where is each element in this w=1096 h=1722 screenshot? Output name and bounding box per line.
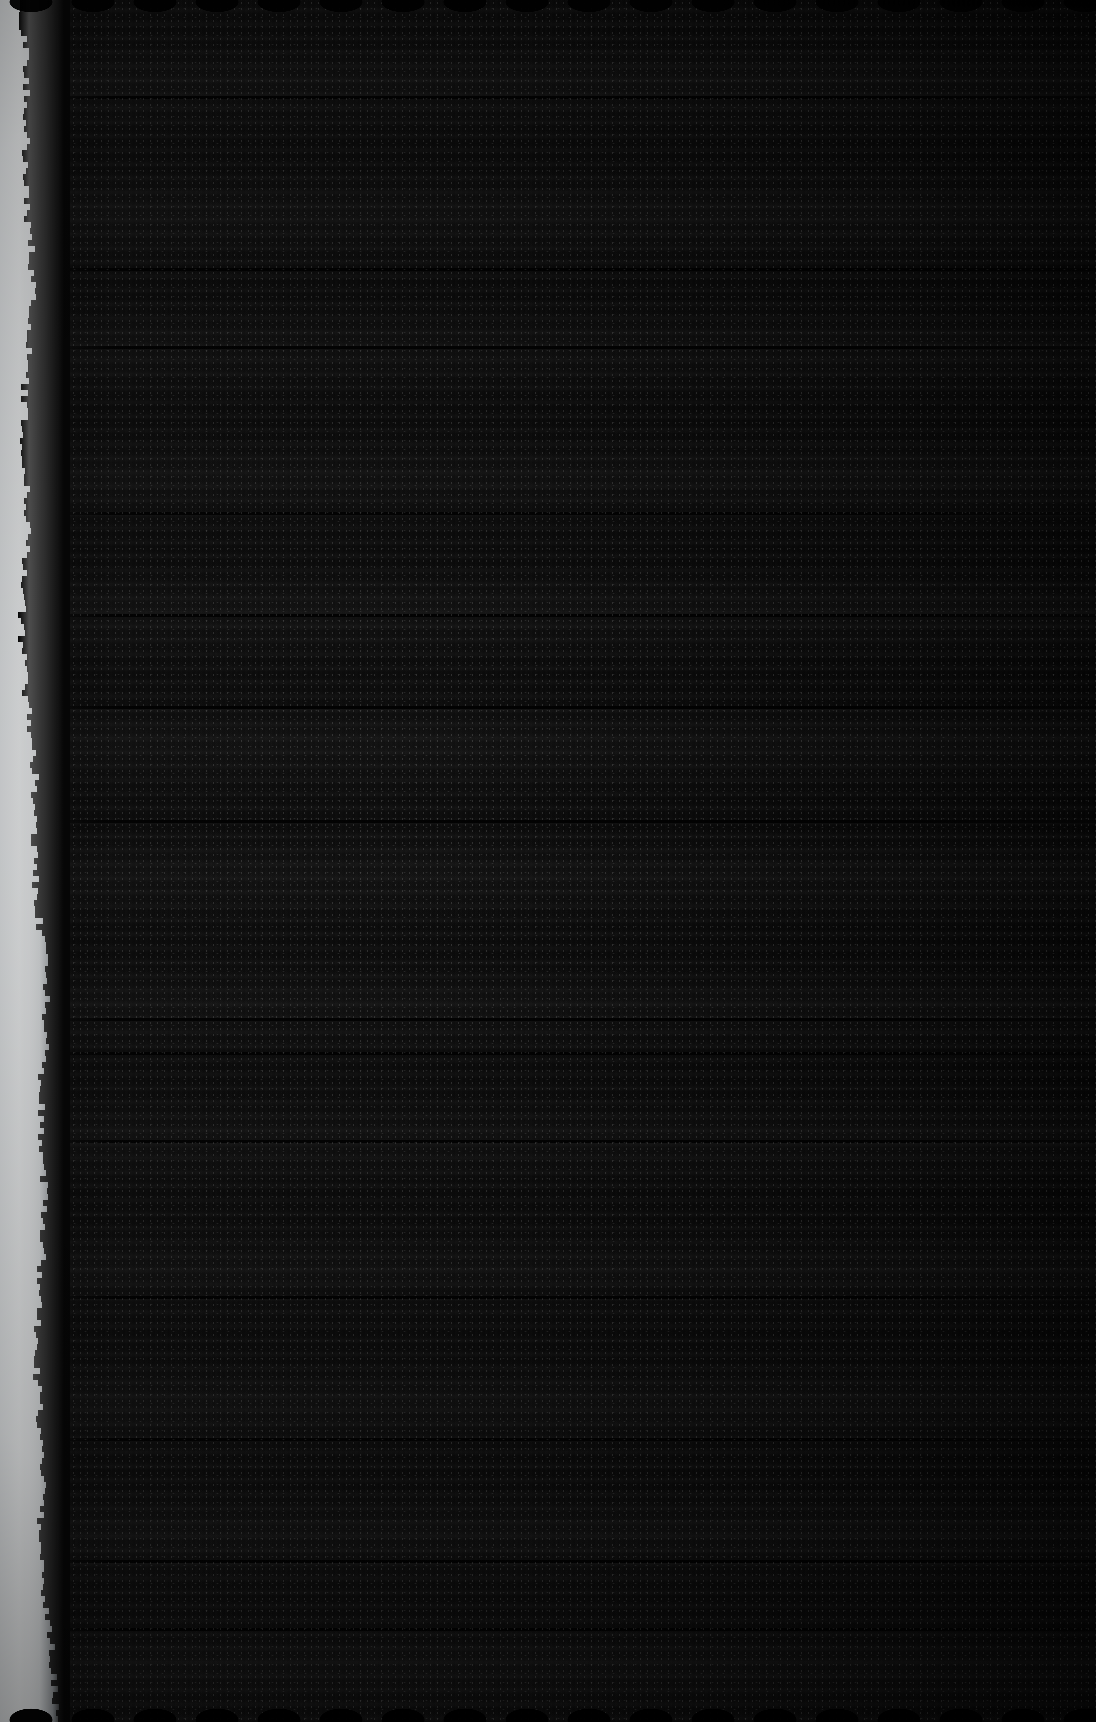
fabric-field xyxy=(0,0,1096,1722)
scalloped-top-edge xyxy=(0,0,1096,26)
scalloped-bottom-edge xyxy=(0,1692,1096,1722)
film-grain xyxy=(0,0,1096,1722)
photograph-canvas xyxy=(0,0,1096,1722)
frayed-edge-fibers xyxy=(0,0,70,1722)
